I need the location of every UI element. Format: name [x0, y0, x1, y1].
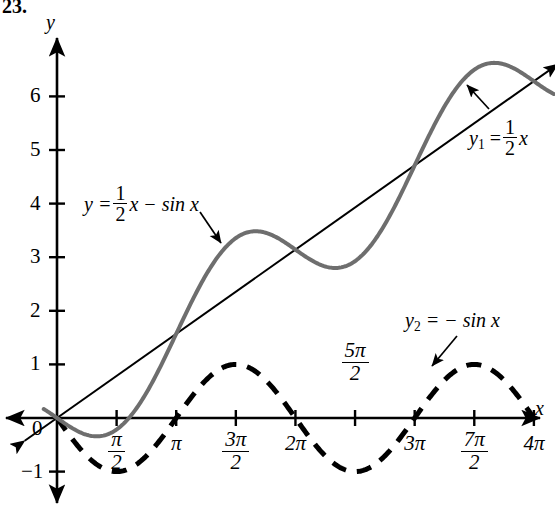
y-tick-label: 5	[30, 139, 41, 160]
annotation-sine-subscript: 2	[414, 319, 421, 334]
y-axis-label: y	[46, 12, 55, 32]
x-tick-label: 2π	[272, 433, 318, 454]
y-tick-label: 3	[30, 246, 41, 267]
leader-arrow-sum-curve	[200, 212, 221, 243]
annotation-line-subscript: 1	[478, 137, 485, 152]
x-tick-label: π	[153, 433, 199, 454]
x-tick-label: 3π	[392, 433, 438, 454]
annotation-line-rhs: x	[519, 127, 528, 149]
x-tick-label: 3π2	[213, 429, 259, 474]
annotation-sum-rhs: x − sin x	[129, 193, 199, 215]
annotation-line-equals: =	[490, 127, 501, 149]
annotation-sum-curve: y =12x − sin x	[84, 183, 199, 225]
y-tick-label: −1	[21, 461, 43, 482]
origin-label: 0	[32, 418, 43, 439]
annotation-sum-denominator: 2	[113, 204, 127, 225]
annotation-sum-numerator: 1	[113, 183, 127, 204]
x-tick-label: 5π2	[332, 340, 378, 385]
x-tick-label: 4π	[511, 433, 555, 454]
annotation-line-numerator: 1	[503, 117, 517, 138]
annotation-sine-y2: y2 = − sin x	[405, 310, 500, 333]
y-tick-label: 1	[30, 353, 41, 374]
y-tick-label: 6	[30, 85, 41, 106]
leader-arrow-sine-curve	[432, 336, 457, 366]
graph-figure: 23. y x 0 654321−1 π2π3π	[0, 0, 555, 509]
leader-arrow-line	[467, 85, 489, 109]
y-tick-label: 2	[30, 300, 41, 321]
y-tick-label: 4	[30, 193, 41, 214]
annotation-sine-rest: = − sin x	[426, 309, 500, 331]
annotation-line-denominator: 2	[503, 138, 517, 159]
annotation-sum-fraction: 12	[113, 183, 127, 225]
x-tick-label: 7π2	[451, 429, 497, 474]
annotation-line-lhs: y	[469, 127, 478, 149]
annotation-line-fraction: 12	[503, 117, 517, 159]
x-axis-label: x	[535, 398, 544, 418]
annotation-sum-lhs: y =	[84, 193, 111, 215]
x-tick-label: π2	[94, 429, 140, 474]
annotation-line-y1: y1 =12x	[469, 117, 528, 159]
annotation-sine-lhs: y	[405, 309, 414, 331]
